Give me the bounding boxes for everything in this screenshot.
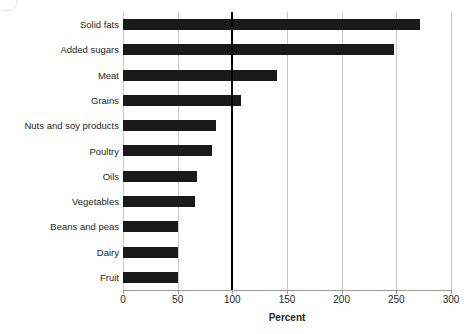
bar-row	[123, 113, 451, 138]
reference-line-100-percent	[231, 12, 233, 290]
bar-row	[123, 265, 451, 290]
x-tick-label: 150	[279, 294, 296, 305]
bar	[123, 196, 195, 207]
gridline-300	[451, 12, 452, 290]
category-label: Vegetables	[1, 196, 119, 207]
bar-row	[123, 189, 451, 214]
bar	[123, 120, 216, 131]
bar-row	[123, 37, 451, 62]
x-tick-label: 50	[172, 294, 183, 305]
bar-row	[123, 12, 451, 37]
x-axis-title: Percent	[123, 312, 451, 323]
category-label: Solid fats	[1, 19, 119, 30]
x-tick-label: 0	[120, 294, 126, 305]
category-axis-labels: Solid fatsAdded sugarsMeatGrainsNuts and…	[0, 12, 119, 290]
bar	[123, 272, 178, 283]
bar	[123, 221, 178, 232]
bar	[123, 145, 212, 156]
category-label: Added sugars	[1, 44, 119, 55]
bar-row	[123, 88, 451, 113]
x-tick-label: 250	[388, 294, 405, 305]
bar-row	[123, 214, 451, 239]
bar	[123, 44, 394, 55]
bar-row	[123, 239, 451, 264]
plot-area	[123, 12, 451, 290]
bar	[123, 171, 197, 182]
category-label: Oils	[1, 171, 119, 182]
bar-chart: Solid fatsAdded sugarsMeatGrainsNuts and…	[0, 0, 471, 334]
bar-row	[123, 63, 451, 88]
bar-row	[123, 138, 451, 163]
bar	[123, 247, 178, 258]
bar-row	[123, 164, 451, 189]
category-label: Grains	[1, 95, 119, 106]
category-label: Nuts and soy products	[1, 120, 119, 131]
x-tick-label: 200	[333, 294, 350, 305]
x-tick-label: 300	[443, 294, 460, 305]
category-label: Poultry	[1, 146, 119, 157]
bar	[123, 95, 241, 106]
category-label: Meat	[1, 70, 119, 81]
bar	[123, 70, 277, 81]
category-label: Beans and peas	[1, 221, 119, 232]
category-label: Dairy	[1, 247, 119, 258]
bar	[123, 19, 420, 30]
category-label: Fruit	[1, 272, 119, 283]
x-tick-label: 100	[224, 294, 241, 305]
